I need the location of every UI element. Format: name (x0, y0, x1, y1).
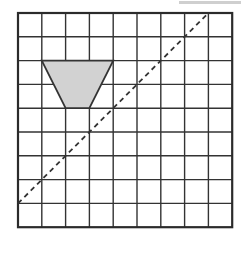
grid-lines (18, 13, 232, 227)
figure-root: Grid with shaded trapezoid and dashed di… (0, 0, 246, 256)
grid-outer-border (18, 13, 232, 227)
grid-figure (0, 0, 246, 256)
grid-border-rect (18, 13, 232, 227)
